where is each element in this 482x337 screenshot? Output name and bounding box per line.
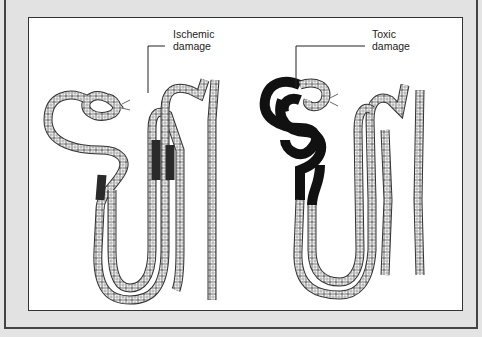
- toxic-label-line1: Toxic: [372, 28, 410, 40]
- ischemic-leader-line: [148, 46, 165, 93]
- ischemic-nephron: [48, 80, 215, 300]
- ischemic-damage-label: Ischemic damage: [173, 28, 214, 52]
- toxic-label-line2: damage: [372, 40, 410, 52]
- ischemic-label-line1: Ischemic: [173, 28, 214, 40]
- toxic-nephron: [265, 82, 420, 295]
- toxic-damage-label: Toxic damage: [372, 28, 410, 52]
- ischemic-label-line2: damage: [173, 40, 214, 52]
